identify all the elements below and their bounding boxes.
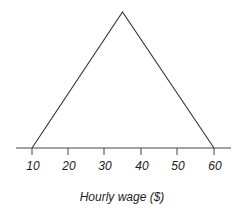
triangle-distribution-line <box>32 12 214 148</box>
x-tick-label: 50 <box>171 159 184 173</box>
x-tick-label: 10 <box>26 159 39 173</box>
x-tick-label: 60 <box>208 159 221 173</box>
chart-plot <box>0 0 244 213</box>
x-tick-label: 40 <box>135 159 148 173</box>
x-tick-label: 30 <box>98 159 111 173</box>
x-axis-title: Hourly wage ($) <box>0 190 244 204</box>
x-axis-ticks <box>32 148 214 155</box>
x-tick-label: 20 <box>62 159 75 173</box>
